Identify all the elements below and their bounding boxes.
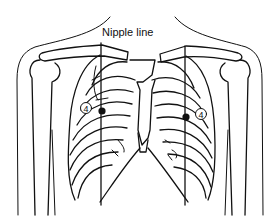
- right-ribs: [148, 56, 215, 202]
- left-ribs: [68, 55, 140, 202]
- left-number-label: 4: [83, 104, 88, 114]
- right-number-label: 4: [198, 110, 203, 120]
- body-outline: [17, 17, 263, 215]
- sternum: [130, 60, 155, 152]
- right-electrode-dot: [182, 113, 189, 120]
- right-marker: 4: [182, 109, 206, 121]
- left-electrode-dot: [98, 107, 105, 114]
- rib-cage-diagram: Nipple line 4 4: [0, 0, 280, 223]
- nipple-line-label: Nipple line: [102, 26, 153, 38]
